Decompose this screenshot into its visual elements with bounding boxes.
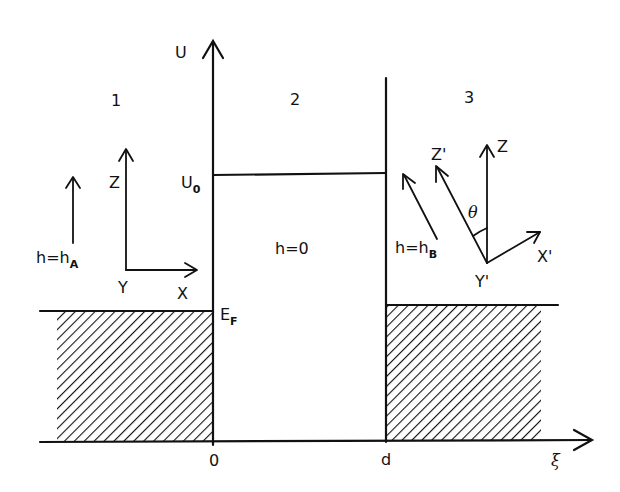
frame-right-theta-label: θ [468,203,478,222]
barrier-top-line [213,173,386,175]
frame-left-y-label: Y [117,278,128,297]
origin-label: 0 [209,451,219,470]
frame-right-z-label: Z [497,137,508,156]
frame-right-zprime-label: Z' [431,145,446,164]
frame-right-xprime-label: X' [537,247,552,266]
left-electrode-filled-states [57,311,213,442]
barrier-height-label: U0 [181,173,201,196]
frame-right-yprime-label: Y' [474,272,489,291]
field-label-b: h=hB [395,238,437,261]
field-arrow-a-icon [66,177,80,243]
field-label-a: h=hA [36,248,79,271]
xi-axis-label: ξ [551,451,561,470]
fermi-level-label: EF [220,305,238,328]
region-3-label: 3 [464,88,474,107]
frame-axes-left-icon [119,149,197,277]
field-arrow-b-icon [403,174,437,239]
frame-left-z-label: Z [109,173,120,192]
right-electrode-filled-states [386,305,541,441]
barrier-width-label: d [381,450,391,469]
frame-left-x-label: X [177,284,188,303]
u-axis-label: U [175,43,187,62]
junction-diagram: U ξ 0 d U0 EF 1 2 3 h=hA Z Y X h=0 h=hB [0,0,620,492]
region-1-label: 1 [111,91,121,110]
frame-axes-right-icon [436,145,540,263]
region-2-label: 2 [290,90,300,109]
field-label-barrier: h=0 [275,239,309,258]
